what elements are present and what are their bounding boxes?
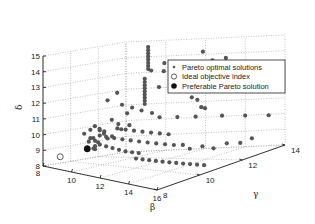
pareto-point (166, 132, 170, 136)
pareto-point (195, 163, 199, 167)
pareto-point (104, 135, 108, 139)
pareto-point (238, 141, 242, 145)
grid-line (43, 89, 126, 103)
pareto-point (154, 159, 158, 163)
y-tick-mark (282, 144, 285, 145)
pareto-point (123, 149, 127, 153)
x-tick-label: 10 (67, 176, 76, 185)
y-tick-mark (239, 159, 242, 160)
pareto-point (139, 108, 143, 112)
pareto-point (130, 150, 134, 154)
legend-label: Pareto optimal solutions (182, 63, 262, 72)
pareto-point (125, 111, 129, 115)
pareto-point (130, 105, 134, 109)
pareto-point (188, 162, 192, 166)
pareto-point (174, 161, 178, 165)
pareto-point (115, 91, 119, 95)
pareto-point (147, 158, 151, 162)
legend: Pareto optimal solutions Ideal objective… (168, 60, 285, 93)
pareto-point (200, 144, 204, 148)
z-tick-label: 15 (31, 52, 40, 61)
y-axis-label-gamma: γ (253, 189, 258, 199)
y-axis-line (157, 145, 285, 190)
pareto-point (117, 148, 121, 152)
grid-line (72, 150, 166, 172)
pareto-point (150, 111, 154, 115)
pareto-point (267, 113, 271, 117)
pareto-point (157, 115, 161, 119)
pareto-point (250, 136, 254, 140)
pareto-point (116, 122, 120, 126)
legend-entry-ideal-objective: Ideal objective index (171, 72, 250, 81)
legend-entry-preferable-pareto: Preferable Pareto solution (171, 82, 269, 91)
x-tick-label: 14 (124, 188, 133, 197)
x-tick-label: 8 (36, 169, 41, 178)
grid-line (126, 114, 285, 121)
pareto-point (188, 147, 192, 151)
pareto-point (132, 129, 136, 133)
pareto-point (195, 98, 199, 102)
pareto-point (211, 146, 215, 150)
z-tick-label: 11 (32, 115, 41, 124)
pareto-point (110, 118, 114, 122)
y-tick-label: 8 (163, 191, 168, 200)
pareto-point (134, 156, 138, 160)
small-dot-marker-icon (173, 66, 176, 69)
pareto-point (172, 143, 176, 147)
pareto-point (201, 50, 205, 54)
grid-line (43, 42, 126, 56)
pareto-point (137, 151, 141, 155)
pareto-point (105, 98, 109, 102)
grid-line (43, 58, 126, 72)
y-tick-label: 14 (291, 146, 300, 155)
pareto-point (98, 128, 102, 132)
ideal-objective-point (57, 154, 63, 160)
pareto-point (104, 144, 108, 148)
pareto-point (158, 131, 162, 135)
pareto-point (88, 136, 92, 140)
pareto-point (124, 127, 128, 131)
pareto-point (120, 103, 124, 107)
grid-line (126, 98, 285, 105)
pareto-point (160, 160, 164, 164)
grid-line (43, 105, 126, 119)
pareto-point (163, 142, 167, 146)
preferable-pareto-point (84, 145, 91, 152)
pareto-point (119, 127, 123, 131)
pareto-point (93, 124, 97, 128)
y-tick-label: 10 (206, 176, 215, 185)
pareto-point (127, 123, 131, 127)
pareto-point (224, 56, 228, 60)
pareto-point (137, 139, 141, 143)
pareto-point (181, 143, 185, 147)
z-tick-label: 14 (31, 68, 40, 77)
z-tick-label: 12 (31, 99, 40, 108)
pareto-point (143, 102, 147, 106)
pareto-point (110, 146, 114, 150)
pareto-point (146, 140, 150, 144)
filled-circle-marker-icon (171, 83, 177, 89)
pareto-point (120, 137, 124, 141)
grid-line (43, 152, 126, 166)
legend-label: Ideal objective index (182, 72, 250, 81)
z-tick-label: 9 (36, 146, 41, 155)
pareto-point (194, 115, 198, 119)
pareto-point (167, 160, 171, 164)
pareto-point (82, 132, 86, 136)
pareto-point (220, 114, 224, 118)
pareto-point (98, 142, 102, 146)
pareto-point (203, 106, 207, 110)
y-tick-label: 12 (248, 161, 257, 170)
pareto-point (162, 69, 166, 73)
grid-line (43, 73, 126, 87)
pareto-point (112, 136, 116, 140)
z-tick-label: 13 (31, 83, 40, 92)
legend-entry-pareto-optimal: Pareto optimal solutions (173, 63, 263, 72)
y-tick-mark (197, 174, 200, 175)
pareto-point (154, 141, 158, 145)
legend-label: Preferable Pareto solution (182, 82, 269, 91)
pareto-3d-scatter-chart: 891011121314158101214168101214 β γ δ Par… (0, 0, 315, 224)
pareto-point (98, 134, 102, 138)
pareto-point (157, 85, 161, 89)
pareto-point (140, 157, 144, 161)
